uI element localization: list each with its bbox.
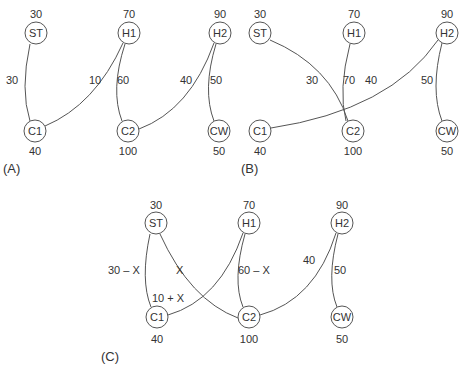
node-c1: C1 40 (146, 306, 168, 345)
node-label: H1 (347, 27, 361, 39)
edge-label: X (176, 264, 184, 276)
panel-label: (C) (101, 349, 119, 364)
edge-label: 40 (365, 74, 377, 86)
node-value: 100 (240, 333, 258, 345)
node-h2: 90 H2 (209, 8, 231, 44)
edge-st-c1 (145, 234, 151, 307)
edge-h2-c2 (260, 233, 336, 315)
node-value: 90 (336, 199, 348, 211)
edge-label: 50 (210, 74, 222, 86)
node-h1: 70 H1 (343, 8, 365, 44)
edge-h2-c2 (139, 43, 214, 129)
node-c1: C1 40 (249, 120, 271, 157)
node-value: 40 (151, 333, 163, 345)
edge-h1-c1 (45, 43, 123, 126)
node-h2: 90 H2 (331, 199, 353, 234)
node-cw: CW 50 (208, 120, 230, 157)
node-label: C2 (242, 311, 256, 323)
edge-h2-cw (436, 43, 442, 121)
node-st: 30 ST (25, 8, 47, 44)
edge-label: 50 (421, 74, 433, 86)
node-c2: C2 100 (238, 306, 260, 345)
node-label: H1 (122, 27, 136, 39)
panel-label: (B) (241, 161, 258, 176)
panel-a: 30 10 60 40 50 30 ST 70 H1 90 H2 C1 40 C… (3, 8, 231, 176)
node-c2: C2 100 (342, 120, 364, 157)
panel-b: 30 70 40 50 30 ST 70 H1 90 H2 C1 40 C2 1… (241, 8, 458, 176)
edge-label: 30 (306, 74, 318, 86)
node-label: C1 (253, 125, 267, 137)
node-cw: CW 50 (436, 120, 458, 157)
node-label: C1 (28, 125, 42, 137)
node-value: 90 (214, 8, 226, 20)
node-label: CW (333, 311, 352, 323)
edge-label: 30 (6, 74, 18, 86)
panel-label: (A) (3, 161, 20, 176)
edge-label: 30 – X (108, 264, 140, 276)
node-value: 70 (243, 199, 255, 211)
heat-exchanger-network-diagram: 30 10 60 40 50 30 ST 70 H1 90 H2 C1 40 C… (0, 0, 466, 371)
node-label: CW (210, 125, 229, 137)
edge-label: 10 (89, 74, 101, 86)
edge-st-c2 (160, 234, 238, 318)
node-label: ST (149, 217, 163, 229)
node-label: C1 (150, 311, 164, 323)
node-label: ST (253, 27, 267, 39)
node-value: 30 (30, 8, 42, 20)
node-value: 40 (29, 145, 41, 157)
node-value: 30 (254, 8, 266, 20)
node-st: 30 ST (249, 8, 271, 44)
edge-label: 40 (303, 254, 315, 266)
node-value: 70 (123, 8, 135, 20)
node-value: 50 (336, 333, 348, 345)
node-h2: 90 H2 (436, 8, 458, 44)
node-label: ST (29, 27, 43, 39)
node-value: 30 (150, 199, 162, 211)
node-value: 40 (254, 145, 266, 157)
node-value: 50 (213, 145, 225, 157)
node-value: 70 (348, 8, 360, 20)
edge-label: 70 (343, 74, 355, 86)
edge-label: 60 (117, 74, 129, 86)
edge-st-c1 (25, 44, 30, 121)
node-h1: 70 H1 (238, 199, 260, 234)
node-label: H2 (213, 27, 227, 39)
node-h1: 70 H1 (118, 8, 140, 44)
node-st: 30 ST (145, 199, 167, 234)
panel-c: 30 – X X 10 + X 60 – X 40 50 30 ST 70 H1… (101, 199, 353, 364)
node-value: 100 (344, 145, 362, 157)
node-label: C2 (121, 125, 135, 137)
node-c1: C1 40 (24, 120, 46, 157)
edge-label: 40 (180, 74, 192, 86)
node-label: C2 (346, 125, 360, 137)
edge-label: 60 – X (238, 264, 270, 276)
edge-label: 10 + X (152, 292, 185, 304)
node-c2: C2 100 (117, 120, 139, 157)
edge-label: 50 (334, 264, 346, 276)
node-value: 90 (441, 8, 453, 20)
node-label: H1 (242, 217, 256, 229)
node-value: 50 (441, 145, 453, 157)
node-value: 100 (119, 145, 137, 157)
node-label: H2 (440, 27, 454, 39)
node-cw: CW 50 (331, 306, 353, 345)
node-label: CW (438, 125, 457, 137)
node-label: H2 (335, 217, 349, 229)
